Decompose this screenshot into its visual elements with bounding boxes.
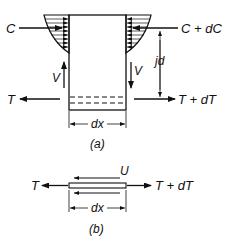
label-c: C <box>6 21 16 36</box>
caption-a: (a) <box>90 137 105 151</box>
beam-element-diagram: C C + dC V V jd T T + dT dx (a) U T <box>0 0 230 248</box>
left-compression-stress-block <box>44 15 69 53</box>
right-compression-stress-block <box>126 15 151 53</box>
label-jd: jd <box>153 54 165 68</box>
label-dx-a: dx <box>91 117 105 131</box>
label-t-b: T <box>31 178 40 193</box>
beam-element <box>69 15 126 110</box>
label-v-right: V <box>134 64 143 78</box>
label-c-plus-dc: C + dC <box>181 21 222 36</box>
label-v-left: V <box>52 71 61 85</box>
label-dx-b: dx <box>91 201 105 215</box>
label-t: T <box>7 92 16 107</box>
figure-b: U T T + dT dx (b) <box>31 164 194 236</box>
label-t-plus-dt: T + dT <box>178 92 217 107</box>
figure-a: C C + dC V V jd T T + dT dx (a) <box>6 15 222 151</box>
reinforcing-bar <box>69 183 126 188</box>
label-t-plus-dt-b: T + dT <box>155 178 194 193</box>
caption-b: (b) <box>89 222 104 236</box>
label-u: U <box>120 164 129 178</box>
